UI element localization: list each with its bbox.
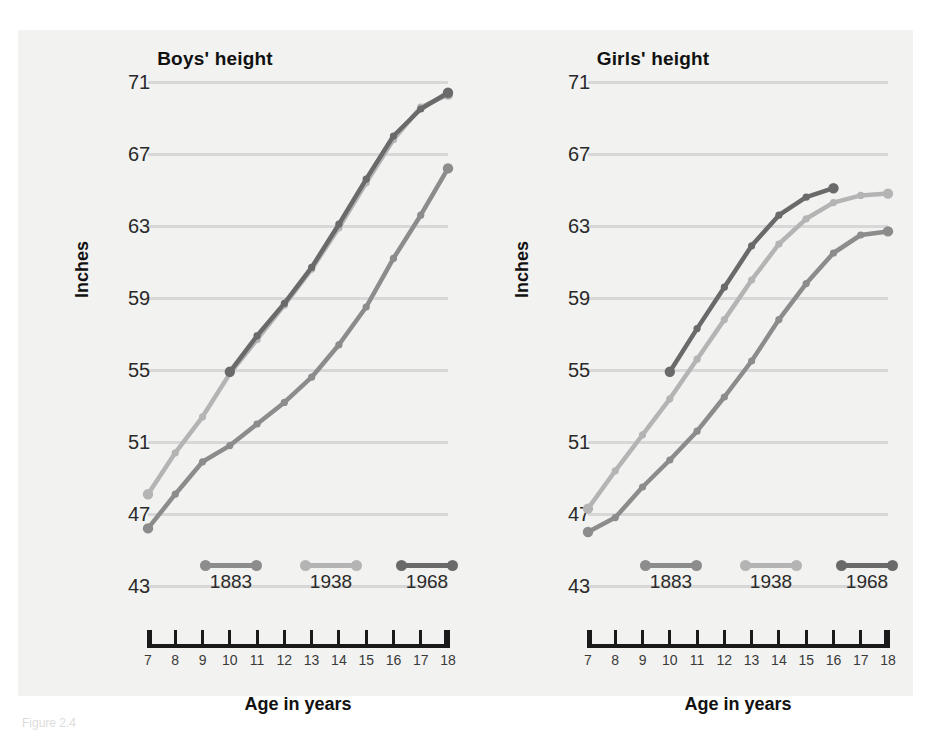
data-point <box>143 523 153 533</box>
data-point <box>693 325 700 332</box>
chart-boys-height: Boys' height Inches 7167635955514743 188… <box>40 30 470 696</box>
x-axis-tick-label: 15 <box>798 652 814 668</box>
y-axis-label-boys: Inches <box>72 178 93 298</box>
x-axis-tick <box>641 630 644 648</box>
x-axis-tick-label: 17 <box>413 652 429 668</box>
x-axis-tick <box>337 630 340 648</box>
x-axis-tick <box>668 630 671 648</box>
x-axis-tick <box>201 630 204 648</box>
data-point <box>390 255 397 262</box>
x-axis-tick <box>392 630 395 648</box>
x-axis-tick-label: 15 <box>358 652 374 668</box>
data-point <box>775 212 782 219</box>
y-axis-tick-label: 55 <box>568 359 574 382</box>
legend-item-1968[interactable]: 1968 <box>824 560 910 592</box>
x-axis-tick-label: 7 <box>144 652 152 668</box>
y-axis-tick-label: 59 <box>568 287 574 310</box>
data-point <box>253 420 260 427</box>
data-point <box>583 527 593 537</box>
y-axis-tick-label: 47 <box>568 503 574 526</box>
x-axis-tick-label: 9 <box>639 652 647 668</box>
legend-item-1938[interactable]: 1938 <box>288 560 374 592</box>
x-axis-tick <box>447 630 450 648</box>
data-point <box>883 226 893 236</box>
x-axis-tick-label: 16 <box>826 652 842 668</box>
legend-label: 1883 <box>628 572 714 592</box>
data-point <box>363 303 370 310</box>
x-axis-tick <box>365 630 368 648</box>
x-axis-tick-label: 14 <box>771 652 787 668</box>
data-point <box>199 413 206 420</box>
x-axis-tick-label: 8 <box>171 652 179 668</box>
legend-item-1883[interactable]: 1883 <box>628 560 714 592</box>
legend-swatch-icon <box>836 560 898 571</box>
x-axis-tick-label: 18 <box>440 652 456 668</box>
legend-item-1938[interactable]: 1938 <box>728 560 814 592</box>
x-axis-tick <box>777 630 780 648</box>
y-axis-tick-label: 43 <box>128 575 134 598</box>
data-point <box>666 395 673 402</box>
legend-swatch-icon <box>740 560 802 571</box>
x-axis-rule <box>588 644 888 648</box>
x-axis-tick <box>587 630 590 648</box>
legend-label: 1968 <box>384 572 470 592</box>
legend-item-1968[interactable]: 1968 <box>384 560 470 592</box>
data-point <box>830 249 837 256</box>
chart-title-boys: Boys' height <box>0 48 430 70</box>
legend-label: 1938 <box>288 572 374 592</box>
legend-swatch-icon <box>396 560 458 571</box>
legend-item-1883[interactable]: 1883 <box>188 560 274 592</box>
legend-swatch-icon <box>300 560 362 571</box>
data-point <box>748 357 755 364</box>
data-point <box>443 88 453 98</box>
series-line-1938 <box>588 194 888 509</box>
x-axis-tick-label: 14 <box>331 652 347 668</box>
data-point <box>721 393 728 400</box>
legend-label: 1938 <box>728 572 814 592</box>
x-axis-tick-labels: 789101112131415161718 <box>148 652 448 674</box>
series-lines-boys <box>148 82 448 586</box>
x-axis-tick-labels: 789101112131415161718 <box>588 652 888 674</box>
data-point <box>721 316 728 323</box>
data-point <box>443 163 453 173</box>
data-point <box>417 212 424 219</box>
data-point <box>775 316 782 323</box>
data-point <box>830 199 837 206</box>
legend-label: 1968 <box>824 572 910 592</box>
x-axis-tick <box>750 630 753 648</box>
x-axis-tick-label: 18 <box>880 652 896 668</box>
x-axis-label-girls: Age in years <box>588 694 888 715</box>
data-point <box>225 367 235 377</box>
x-axis-tick <box>147 630 150 648</box>
x-axis-tick <box>174 630 177 648</box>
data-point <box>390 132 397 139</box>
y-axis-tick-label: 51 <box>568 431 574 454</box>
data-point <box>363 176 370 183</box>
data-point <box>335 221 342 228</box>
x-axis-tick <box>696 630 699 648</box>
data-point <box>693 356 700 363</box>
x-axis-tick <box>614 630 617 648</box>
x-axis-tick <box>310 630 313 648</box>
y-axis-tick-label: 43 <box>568 575 574 598</box>
x-axis-tick <box>723 630 726 648</box>
data-point <box>281 399 288 406</box>
data-point <box>226 442 233 449</box>
x-axis-tick <box>832 630 835 648</box>
y-axis-tick-label: 51 <box>128 431 134 454</box>
x-axis-tick-label: 10 <box>222 652 238 668</box>
data-point <box>281 300 288 307</box>
y-axis-tick-label: 71 <box>568 71 574 94</box>
legend-label: 1883 <box>188 572 274 592</box>
x-axis-tick-label: 8 <box>611 652 619 668</box>
x-axis-label-boys: Age in years <box>148 694 448 715</box>
x-axis-tick-label: 13 <box>744 652 760 668</box>
data-point <box>803 280 810 287</box>
x-axis-tick-label: 10 <box>662 652 678 668</box>
y-axis-tick-label: 67 <box>568 143 574 166</box>
chart-girls-height: Girls' height Inches 7167635955514743 18… <box>480 30 910 696</box>
series-lines-girls <box>588 82 888 586</box>
data-point <box>417 105 424 112</box>
data-point <box>857 192 864 199</box>
data-point <box>335 341 342 348</box>
